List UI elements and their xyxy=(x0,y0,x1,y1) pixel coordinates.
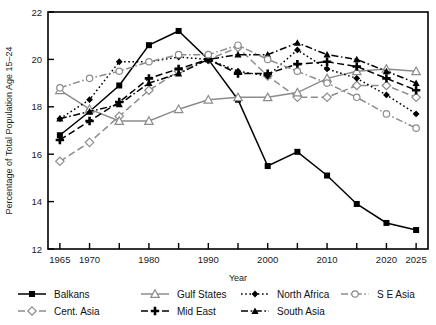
x-axis-tick-label: 2000 xyxy=(257,254,278,265)
data-point-marker xyxy=(252,291,259,298)
data-point-marker xyxy=(116,82,122,88)
line-chart: 1214161820221965197019801990200020102020… xyxy=(0,0,436,325)
data-point-marker xyxy=(324,65,331,72)
chart-figure: 1214161820221965197019801990200020102020… xyxy=(0,0,436,325)
legend-label: Balkans xyxy=(54,289,90,300)
y-axis-tick-label: 16 xyxy=(31,149,42,160)
data-point-marker xyxy=(175,51,181,57)
series-north-africa xyxy=(56,47,419,123)
data-point-marker xyxy=(382,74,390,82)
data-point-marker xyxy=(86,75,92,81)
data-point-marker xyxy=(264,56,270,62)
data-point-marker xyxy=(29,291,35,297)
data-point-marker xyxy=(413,125,419,131)
x-axis-tick-label: 1980 xyxy=(138,254,159,265)
data-point-marker xyxy=(353,81,361,89)
data-point-marker xyxy=(146,42,152,48)
data-point-marker xyxy=(294,149,300,155)
data-point-marker xyxy=(353,56,360,62)
legend-label: Mid East xyxy=(177,306,216,317)
series-cent-asia xyxy=(56,43,421,165)
series-line xyxy=(60,50,416,119)
legend-item-s-e-asia[interactable]: S E Asia xyxy=(341,289,415,300)
data-point-marker xyxy=(354,94,360,100)
data-point-marker xyxy=(294,39,301,45)
x-axis-tick-label: 2025 xyxy=(406,254,427,265)
data-point-marker xyxy=(293,88,301,96)
y-axis-tick-label: 14 xyxy=(31,196,42,207)
data-point-marker xyxy=(56,157,64,165)
data-point-marker xyxy=(412,86,420,94)
data-point-marker xyxy=(28,307,36,315)
legend-item-gulf-states[interactable]: Gulf States xyxy=(141,289,226,300)
y-axis-tick-label: 18 xyxy=(31,101,42,112)
data-point-marker xyxy=(176,28,182,34)
data-point-marker xyxy=(293,60,301,68)
series-south-asia xyxy=(56,39,419,121)
data-point-marker xyxy=(383,220,389,226)
data-point-marker xyxy=(383,111,389,117)
data-point-marker xyxy=(353,75,360,82)
y-axis-tick-label: 12 xyxy=(31,244,42,255)
series-line xyxy=(60,31,416,230)
data-point-marker xyxy=(151,307,159,315)
data-point-marker xyxy=(116,68,122,74)
data-point-marker xyxy=(265,163,271,169)
legend-label: South Asia xyxy=(277,306,325,317)
series-line xyxy=(60,48,416,162)
data-point-marker xyxy=(85,138,93,146)
x-axis-tick-label: 2020 xyxy=(376,254,397,265)
y-axis-title: Percentage of Total Population Age 15–24 xyxy=(4,47,14,215)
data-point-marker xyxy=(413,227,419,233)
y-axis-tick-label: 22 xyxy=(31,7,42,18)
data-point-marker xyxy=(324,80,330,86)
data-point-marker xyxy=(57,85,63,91)
y-axis-tick-label: 20 xyxy=(31,54,42,65)
data-point-marker xyxy=(354,201,360,207)
data-point-marker xyxy=(85,117,93,125)
data-point-marker xyxy=(294,68,300,74)
data-point-marker xyxy=(353,62,361,70)
legend-item-mid-east[interactable]: Mid East xyxy=(141,306,216,317)
legend-item-south-asia[interactable]: South Asia xyxy=(241,306,325,317)
legend-label: S E Asia xyxy=(377,289,415,300)
x-axis-tick-label: 1970 xyxy=(79,254,100,265)
data-point-marker xyxy=(235,42,241,48)
legend-label: North Africa xyxy=(277,289,330,300)
data-point-marker xyxy=(323,58,331,66)
legend-item-north-africa[interactable]: North Africa xyxy=(241,289,330,300)
x-axis-title: Year xyxy=(229,273,247,283)
data-point-marker xyxy=(146,59,152,65)
series-line xyxy=(60,45,416,128)
data-point-marker xyxy=(323,93,331,101)
data-point-marker xyxy=(205,51,211,57)
data-point-marker xyxy=(324,173,330,179)
data-point-marker xyxy=(413,111,420,118)
data-point-marker xyxy=(352,291,358,297)
x-axis-tick-label: 2010 xyxy=(316,254,337,265)
legend-label: Gulf States xyxy=(177,289,226,300)
x-axis-tick-label: 1990 xyxy=(198,254,219,265)
series-balkans xyxy=(57,28,419,233)
legend-item-balkans[interactable]: Balkans xyxy=(18,289,90,300)
legend-label: Cent. Asia xyxy=(54,306,100,317)
legend-item-cent-asia[interactable]: Cent. Asia xyxy=(18,306,100,317)
x-axis-tick-label: 1965 xyxy=(49,254,70,265)
